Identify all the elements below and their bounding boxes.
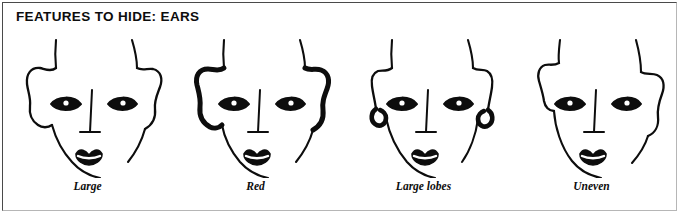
face-caption-red: Red: [172, 178, 339, 202]
figure-panel: FEATURES TO HIDE: EARS: [0, 0, 679, 213]
captions-row: Large Red Large lobes Uneven: [4, 178, 675, 202]
face-caption-large-lobes: Large lobes: [340, 178, 507, 202]
face-illustration-large-lobes: [340, 28, 507, 178]
page-title: FEATURES TO HIDE: EARS: [16, 9, 199, 24]
face-svg-large-lobes: [340, 28, 507, 178]
face-illustration-uneven: [508, 28, 675, 178]
face-svg-red: [172, 28, 339, 178]
faces-row: [4, 28, 675, 178]
face-illustration-red: [172, 28, 339, 178]
face-illustration-large: [4, 28, 171, 178]
face-caption-large: Large: [4, 178, 171, 202]
face-svg-large: [4, 28, 171, 178]
face-caption-uneven: Uneven: [508, 178, 675, 202]
face-svg-uneven: [508, 28, 675, 178]
